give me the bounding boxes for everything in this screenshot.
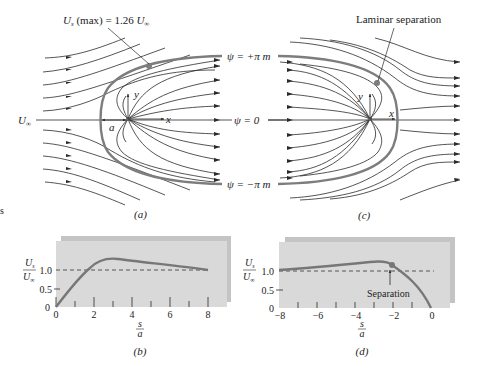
chart-d-xtick: −8 [275,310,286,321]
chart-b-background [56,241,227,307]
separation-point [374,80,380,86]
side-margin-mark: s [0,205,4,216]
svg-text:U∞: U∞ [243,271,255,283]
chart-d-ylabel: Us U∞ [243,257,256,283]
chart-b-ytick-1: 1.0 [40,265,53,276]
chart-b: 0 0.5 1.0 0 2 4 6 8 Us U∞ s a (b) [23,236,231,358]
chart-b-xtick: 8 [206,309,211,320]
max-velocity-annotation: Us (max) = 1.26 U∞ [63,14,149,28]
chart-d-xtick: −2 [389,310,400,321]
chart-b-xtick: 0 [54,309,59,320]
chart-b-xlabel: s a [136,318,144,339]
separation-leader-line [378,28,394,81]
svg-text:a: a [138,328,143,339]
panel-a-streamlines [43,38,220,205]
panel-c-flow-diagram: Laminar separation y x (c) [268,13,460,222]
svg-text:Us: Us [245,257,255,269]
panel-c-x-label: x [388,107,394,119]
panel-c-caption: (c) [358,209,371,222]
svg-text:a: a [360,328,365,339]
chart-b-xtick: 2 [92,309,97,320]
chart-d-ytick-05: 0.5 [262,285,275,296]
panel-a-caption: (a) [134,208,147,221]
svg-text:Us: Us [25,257,35,269]
chart-b-ytick-05: 0.5 [40,284,53,295]
chart-d-separation-point [389,262,395,268]
chart-d-xtick: −6 [313,310,324,321]
svg-text:U∞: U∞ [23,271,35,283]
chart-d-ytick-0: 0 [269,303,274,314]
chart-b-xtick: 4 [130,309,135,320]
separation-label: Separation [367,288,410,299]
chart-d-ytick-1: 1.0 [262,266,275,277]
annotation-leader-line [108,28,149,64]
chart-b-ylabel: Us U∞ [23,257,36,283]
chart-b-caption: (b) [134,345,147,358]
freestream-label: U∞ [18,114,31,128]
psi-zero-label: ψ = 0 [234,114,260,126]
psi-plus-label: ψ = +π m [227,50,270,62]
chart-d-xlabel: s a [358,318,366,339]
panel-c-y-label: y [357,90,363,102]
dimension-a-label: a [109,121,115,133]
figure-canvas: Us (max) = 1.26 U∞ U∞ a y x (a) ψ = +π m… [0,0,480,369]
chart-b-xtick: 6 [168,309,173,320]
chart-b-ytick-0: 0 [45,302,50,313]
panel-a-y-label: y [133,88,139,100]
chart-d: Separation 0 0.5 1.0 −8 −6 −4 −2 0 Us U∞… [243,237,455,358]
psi-minus-label: ψ = −π m [227,178,270,190]
chart-d-xtick: 0 [430,310,435,321]
panel-a-flow-diagram: Us (max) = 1.26 U∞ U∞ a y x (a) [18,14,232,221]
laminar-separation-label: Laminar separation [356,13,442,25]
panel-a-x-label: x [165,113,171,125]
chart-d-caption: (d) [356,345,369,358]
